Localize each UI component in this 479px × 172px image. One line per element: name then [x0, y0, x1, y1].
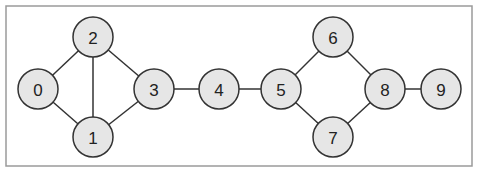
graph-diagram: 0123456789 [0, 0, 479, 172]
node-6: 6 [313, 17, 353, 57]
node-7: 7 [313, 117, 353, 157]
node-2: 2 [73, 17, 113, 57]
node-4: 4 [199, 69, 239, 109]
node-label: 4 [214, 81, 223, 100]
node-1: 1 [73, 117, 113, 157]
node-label: 9 [436, 81, 445, 100]
node-label: 6 [328, 29, 337, 48]
node-label: 7 [328, 129, 337, 148]
node-label: 3 [149, 81, 158, 100]
node-9: 9 [421, 69, 461, 109]
node-5: 5 [261, 69, 301, 109]
node-0: 0 [18, 69, 58, 109]
node-label: 0 [33, 81, 42, 100]
node-label: 2 [88, 29, 97, 48]
node-label: 1 [88, 129, 97, 148]
node-label: 5 [276, 81, 285, 100]
node-8: 8 [365, 69, 405, 109]
node-3: 3 [134, 69, 174, 109]
node-label: 8 [380, 81, 389, 100]
